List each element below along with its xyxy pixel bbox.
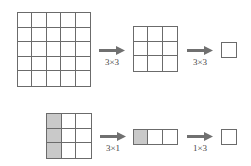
- grid-cell: [32, 13, 46, 28]
- grid-cell: [134, 42, 148, 57]
- grid-cell: [76, 143, 91, 158]
- grid-cell: [222, 130, 236, 144]
- top-middle-grid-3x3: [133, 26, 178, 72]
- grid-cell: [76, 13, 90, 28]
- grid-cell: [62, 143, 77, 158]
- bottom-arrow-2-label: 1×3: [185, 143, 215, 153]
- grid-cell: [47, 13, 61, 28]
- grid-cell: [76, 129, 91, 144]
- grid-cell: [148, 56, 162, 71]
- shaded-cell: [47, 143, 62, 158]
- grid-cell: [61, 57, 75, 72]
- bottom-arrow-1-label: 3×1: [98, 143, 128, 153]
- top-arrow-1-icon: [99, 46, 125, 55]
- bottom-arrow-1-icon: [100, 132, 126, 141]
- bottom-output-box: [221, 129, 237, 145]
- grid-cell: [163, 56, 177, 71]
- grid-cell: [163, 27, 177, 42]
- grid-cell: [32, 42, 46, 57]
- grid-cell: [47, 71, 61, 86]
- grid-cell: [61, 71, 75, 86]
- top-arrow-1-label: 3×3: [97, 57, 127, 67]
- grid-cell: [61, 13, 75, 28]
- grid-cell: [18, 71, 32, 86]
- top-arrow-2-icon: [187, 46, 213, 55]
- shaded-cell: [134, 130, 148, 144]
- grid-cell: [163, 42, 177, 57]
- grid-cell: [61, 42, 75, 57]
- grid-cell: [47, 28, 61, 43]
- top-arrow-2-label: 3×3: [185, 57, 215, 67]
- grid-cell: [76, 28, 90, 43]
- grid-cell: [62, 129, 77, 144]
- grid-cell: [32, 71, 46, 86]
- grid-cell: [76, 71, 90, 86]
- grid-cell: [222, 43, 236, 57]
- grid-cell: [47, 57, 61, 72]
- grid-cell: [134, 27, 148, 42]
- grid-cell: [76, 57, 90, 72]
- grid-cell: [47, 42, 61, 57]
- grid-cell: [148, 42, 162, 57]
- grid-cell: [18, 13, 32, 28]
- grid-cell: [32, 57, 46, 72]
- top-output-box: [221, 42, 237, 58]
- grid-cell: [148, 130, 162, 144]
- bottom-arrow-2-icon: [187, 132, 213, 141]
- top-input-grid-5x5: [17, 12, 91, 87]
- shaded-cell: [47, 129, 62, 144]
- grid-cell: [163, 130, 177, 144]
- grid-cell: [18, 57, 32, 72]
- grid-cell: [76, 114, 91, 129]
- grid-cell: [32, 28, 46, 43]
- grid-cell: [62, 114, 77, 129]
- grid-cell: [18, 42, 32, 57]
- bottom-middle-row-1x3: [133, 129, 178, 145]
- grid-cell: [76, 42, 90, 57]
- grid-cell: [148, 27, 162, 42]
- shaded-cell: [47, 114, 62, 129]
- grid-cell: [61, 28, 75, 43]
- grid-cell: [18, 28, 32, 43]
- grid-cell: [134, 56, 148, 71]
- bottom-input-grid-3x3: [46, 113, 92, 159]
